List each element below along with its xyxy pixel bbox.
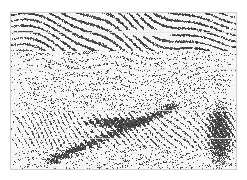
page-root: · · ·· ·· ··· · ·· ·· ··· ·· · ··· ·	[0, 0, 247, 180]
caption-left-text: · · ·· ·· ··· · ·· ·· ···	[4, 1, 58, 7]
caption-right-text: ·· · ··· ·	[221, 1, 243, 7]
seismic-figure-frame	[10, 12, 237, 170]
caption-strip: · · ·· ·· ··· · ·· ·· ··· ·· · ··· ·	[0, 0, 247, 11]
seismic-section-raster	[11, 13, 236, 169]
